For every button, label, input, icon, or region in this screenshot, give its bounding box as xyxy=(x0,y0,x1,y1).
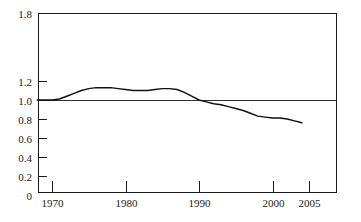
y-axis-tick-labels: 00.20.40.60.81.01.21.8 xyxy=(18,8,32,202)
x-tick-label: 1970 xyxy=(42,197,65,209)
y-tick-label: 0.4 xyxy=(18,152,32,164)
y-tick-label: 1.0 xyxy=(18,95,32,107)
y-tick-label: 0.2 xyxy=(18,171,32,183)
y-tick-label: 1.8 xyxy=(18,8,32,20)
line-chart: 00.20.40.60.81.01.21.8 19701980199020002… xyxy=(0,0,361,222)
x-tick-label: 2005 xyxy=(299,197,322,209)
x-axis-tick-labels: 19701980199020002005 xyxy=(42,197,322,209)
plot-frame xyxy=(39,14,337,193)
y-tick-label: 0.6 xyxy=(18,133,32,145)
data-series-group xyxy=(37,88,302,123)
x-tick-label: 1990 xyxy=(189,197,212,209)
y-axis-ticks xyxy=(38,82,47,177)
data-series-line xyxy=(37,88,302,123)
y-tick-label: 0.8 xyxy=(18,114,32,126)
y-tick-label: 0 xyxy=(27,190,33,202)
y-tick-label: 1.2 xyxy=(18,76,32,88)
x-tick-label: 2000 xyxy=(263,197,286,209)
x-axis-ticks xyxy=(53,181,310,193)
chart-container: 00.20.40.60.81.01.21.8 19701980199020002… xyxy=(0,0,361,222)
x-tick-label: 1980 xyxy=(116,197,139,209)
